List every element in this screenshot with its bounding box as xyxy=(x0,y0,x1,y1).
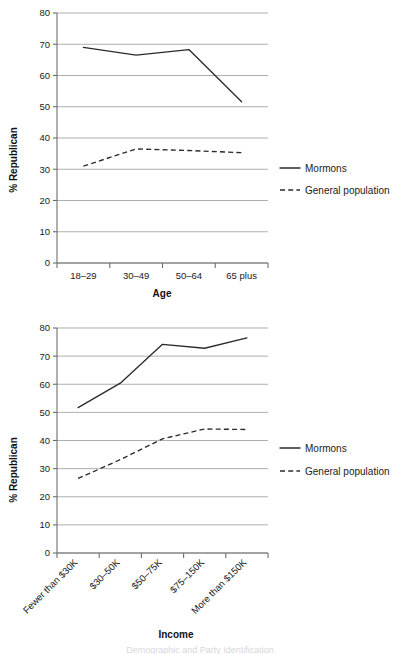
series-line-mormons xyxy=(83,47,241,101)
x-tick-label: 18–29 xyxy=(70,270,96,281)
income-y-axis-title: % Republican xyxy=(8,437,19,503)
x-tick-label: Fewer than $30K xyxy=(21,556,80,615)
income-gridlines xyxy=(57,328,268,553)
age-xtick-labels: 18–2930–4950–6465 plus xyxy=(70,270,257,281)
x-tick-label: 65 plus xyxy=(226,270,257,281)
y-tick-label: 70 xyxy=(39,351,50,362)
age-legend: MormonsGeneral population xyxy=(280,163,390,196)
income-series xyxy=(78,338,247,479)
age-gridlines xyxy=(57,13,268,263)
income-axes xyxy=(53,328,268,558)
y-tick-label: 70 xyxy=(39,39,50,50)
x-tick-label: $30–50K xyxy=(87,556,122,591)
y-tick-label: 50 xyxy=(39,407,50,418)
y-tick-label: 10 xyxy=(39,226,50,237)
page-caption: Demographic and Party Identification xyxy=(0,645,400,654)
y-tick-label: 0 xyxy=(45,257,50,268)
y-tick-label: 30 xyxy=(39,463,50,474)
income-ytick-labels: 01020304050607080 xyxy=(39,322,50,558)
age-x-axis-title: Age xyxy=(153,288,172,299)
income-x-axis-title: Income xyxy=(158,629,193,640)
y-tick-label: 60 xyxy=(39,379,50,390)
y-tick-label: 40 xyxy=(39,132,50,143)
income-xtick-labels: Fewer than $30K$30–50K$50–75K$75–150KMor… xyxy=(21,556,249,616)
y-tick-label: 60 xyxy=(39,70,50,81)
y-tick-label: 0 xyxy=(45,547,50,558)
y-tick-label: 40 xyxy=(39,435,50,446)
age-y-axis-title: % Republican xyxy=(8,127,19,193)
y-tick-label: 50 xyxy=(39,101,50,112)
legend-label: General population xyxy=(305,185,390,196)
chart-income: 01020304050607080 Fewer than $30K$30–50K… xyxy=(0,320,400,654)
y-tick-label: 80 xyxy=(39,7,50,18)
y-tick-label: 20 xyxy=(39,491,50,502)
y-tick-label: 10 xyxy=(39,519,50,530)
age-chart-canvas: 01020304050607080 18–2930–4950–6465 plus… xyxy=(0,0,400,320)
chart-age: 01020304050607080 18–2930–4950–6465 plus… xyxy=(0,0,400,320)
income-legend: MormonsGeneral population xyxy=(280,443,390,477)
y-tick-label: 30 xyxy=(39,164,50,175)
x-tick-label: $50–75K xyxy=(129,556,164,591)
x-tick-label: 50–64 xyxy=(176,270,202,281)
x-tick-label: $75–150K xyxy=(168,556,207,595)
x-tick-label: 30–49 xyxy=(123,270,149,281)
income-chart-canvas: 01020304050607080 Fewer than $30K$30–50K… xyxy=(0,320,400,654)
legend-label: Mormons xyxy=(305,163,347,174)
age-ytick-labels: 01020304050607080 xyxy=(39,7,50,268)
series-line-general-population xyxy=(78,429,247,479)
legend-label: Mormons xyxy=(305,443,347,454)
series-line-general-population xyxy=(83,149,241,166)
legend-label: General population xyxy=(305,466,390,477)
age-axes xyxy=(53,13,268,268)
series-line-mormons xyxy=(78,338,247,408)
y-tick-label: 80 xyxy=(39,322,50,333)
y-tick-label: 20 xyxy=(39,195,50,206)
